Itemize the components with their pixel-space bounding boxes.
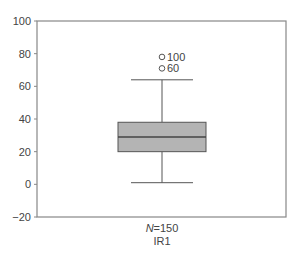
y-tick-label: 20 bbox=[19, 146, 31, 158]
box-plot: 100806040200−20 10060 N=150 IR1 bbox=[0, 0, 302, 262]
outlier-marker bbox=[159, 54, 165, 60]
y-tick-label: 100 bbox=[13, 15, 31, 27]
y-tick-label: 40 bbox=[19, 113, 31, 125]
category-label: IR1 bbox=[153, 235, 170, 247]
y-tick-label: 80 bbox=[19, 48, 31, 60]
y-tick-label: 60 bbox=[19, 80, 31, 92]
sample-size-label: N=150 bbox=[146, 222, 179, 234]
y-tick-label: 0 bbox=[25, 178, 31, 190]
outlier-marker bbox=[159, 66, 165, 72]
y-axis: 100806040200−20 bbox=[12, 15, 37, 223]
y-tick-label: −20 bbox=[12, 211, 31, 223]
outlier-label: 100 bbox=[167, 51, 185, 63]
x-axis-labels: N=150 IR1 bbox=[146, 222, 179, 247]
outlier-label: 60 bbox=[167, 62, 179, 74]
